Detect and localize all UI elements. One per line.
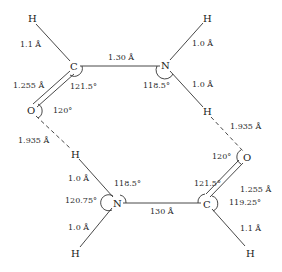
atom-o2: O — [243, 152, 251, 163]
label-angle-n1: 118.5° — [143, 81, 170, 90]
label-n2-h4: 1.0 Å — [68, 174, 89, 183]
label-h3-o2: 1.935 Å — [230, 122, 261, 131]
atom-n2: N — [113, 198, 122, 209]
label-angle-o2: 120° — [212, 152, 231, 161]
label-n1-h3: 1.0 Å — [192, 80, 213, 89]
angle-arc-c2-right — [212, 196, 218, 211]
atom-h2: H — [203, 13, 212, 24]
atom-h1: H — [28, 13, 37, 24]
label-angle-n2-left: 120.75° — [65, 196, 97, 205]
formamide-dimer-diagram: H C N H H O H N H O C H 1.1 Å 1.30 Å 1.0… — [0, 0, 282, 272]
label-angle-c2-right: 119.25° — [229, 198, 261, 207]
label-c2-o2: 1.255 Å — [240, 185, 271, 194]
label-o1-h4: 1.935 Å — [18, 136, 49, 145]
atom-h3: H — [203, 106, 212, 117]
label-n1-h2: 1.0 Å — [192, 39, 213, 48]
atom-c2: C — [203, 199, 211, 210]
bond-c1-o1-b — [37, 74, 74, 107]
label-c2-h6: 1.1 Å — [240, 224, 261, 233]
atom-h6: H — [246, 248, 255, 259]
label-n2-h5: 1.0 Å — [68, 223, 89, 232]
bond-c1-h1 — [36, 24, 70, 61]
bond-c2-o2-b — [206, 160, 239, 194]
atom-o1: O — [27, 105, 35, 116]
atom-n1: N — [161, 60, 170, 71]
label-angle-c2-top: 121.5° — [194, 179, 221, 188]
atom-c1: C — [70, 61, 78, 72]
label-c1-n1: 1.30 Å — [108, 53, 134, 62]
bond-n1-h3 — [170, 71, 203, 107]
label-angle-o1: 120° — [53, 106, 72, 115]
label-c1-h1: 1.1 Å — [20, 40, 41, 49]
label-angle-n2-top: 118.5° — [114, 179, 141, 188]
label-c1-o1: 1.255 Å — [13, 81, 44, 90]
atom-h5: H — [71, 248, 80, 259]
label-angle-c1: 121.5° — [70, 82, 97, 91]
atom-h4: H — [71, 149, 80, 160]
label-n2-c2: 130 Å — [150, 207, 174, 216]
